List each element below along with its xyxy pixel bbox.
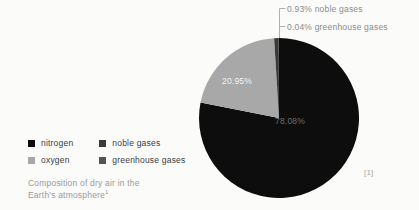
caption-line-1: Composition of dry air in the <box>28 178 140 188</box>
callout-label-noble-gases: 0.93% noble gases <box>287 4 363 14</box>
legend-swatch-greenhouse-gases <box>99 157 106 164</box>
figure-caption: Composition of dry air in the Earth's at… <box>28 177 198 202</box>
pie-chart: 78.08% 20.95% <box>199 38 359 198</box>
caption-line-2: Earth's atmosphere <box>28 190 105 200</box>
reference-mark: [1] <box>364 168 374 177</box>
legend-item-greenhouse-gases[interactable]: greenhouse gases <box>99 155 185 165</box>
legend-swatch-oxygen <box>28 157 35 164</box>
legend-item-nitrogen[interactable]: nitrogen <box>28 138 73 148</box>
pie-value-label-nitrogen: 78.08% <box>275 116 305 126</box>
pie-value-label-oxygen: 20.95% <box>222 76 252 86</box>
legend-item-noble-gases[interactable]: noble gases <box>99 138 185 148</box>
legend: nitrogen noble gases oxygen greenhouse g… <box>28 138 185 165</box>
legend-swatch-nitrogen <box>28 140 35 147</box>
legend-item-oxygen[interactable]: oxygen <box>28 155 73 165</box>
legend-swatch-noble-gases <box>99 140 106 147</box>
legend-label-nitrogen: nitrogen <box>41 138 73 148</box>
caption-footnote-marker: 1 <box>105 189 109 195</box>
legend-label-oxygen: oxygen <box>41 155 70 165</box>
legend-label-noble-gases: noble gases <box>112 138 160 148</box>
callout-label-greenhouse-gases: 0.04% greenhouse gases <box>287 22 388 32</box>
legend-label-greenhouse-gases: greenhouse gases <box>112 155 185 165</box>
pie-chart-figure: 78.08% 20.95% 0.93% noble gases 0.04% gr… <box>0 0 419 210</box>
